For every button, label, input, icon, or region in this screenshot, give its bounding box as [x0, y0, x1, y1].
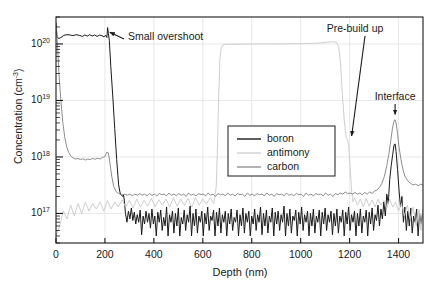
x-tick-label: 1000 — [281, 248, 321, 260]
y-axis-label: Concentration (cm-3) — [12, 46, 25, 186]
y-tick-label: 1017 — [10, 206, 50, 218]
annotation-layer — [110, 32, 395, 136]
x-tick-label: 1400 — [379, 248, 419, 260]
chart-canvas — [0, 0, 437, 290]
x-tick-label: 400 — [134, 248, 174, 260]
x-tick-label: 600 — [183, 248, 223, 260]
x-tick-label: 800 — [232, 248, 272, 260]
y-tick-label: 1019 — [10, 93, 50, 105]
x-axis-label: Depth (nm) — [56, 266, 424, 278]
annotation-small-overshoot: Small overshoot — [128, 30, 203, 42]
figure: Concentration (cm-3) Depth (nm) 10171018… — [0, 0, 437, 290]
legend-item-antimony: antimony — [267, 146, 310, 158]
legend-item-carbon: carbon — [267, 160, 299, 172]
x-tick-label: 0 — [36, 248, 76, 260]
x-tick-label: 1200 — [330, 248, 370, 260]
axis-ticks — [56, 17, 399, 243]
y-tick-label: 1018 — [10, 150, 50, 162]
annotation-interface: Interface — [375, 90, 416, 102]
x-tick-label: 200 — [85, 248, 125, 260]
annotation-pre-build-up: Pre-build up — [327, 22, 384, 34]
y-tick-label: 1020 — [10, 37, 50, 49]
legend-item-boron: boron — [267, 132, 294, 144]
